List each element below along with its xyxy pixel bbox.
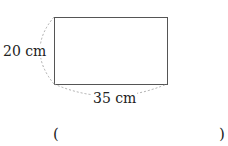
answer-blank[interactable] — [62, 127, 217, 142]
rectangle — [55, 18, 168, 85]
width-label: 35 cm — [92, 91, 137, 105]
answer-open-paren: ( — [53, 127, 59, 142]
answer-close-paren: ) — [219, 127, 225, 142]
rectangle-diagram — [0, 0, 228, 146]
height-label: 20 cm — [3, 44, 46, 58]
